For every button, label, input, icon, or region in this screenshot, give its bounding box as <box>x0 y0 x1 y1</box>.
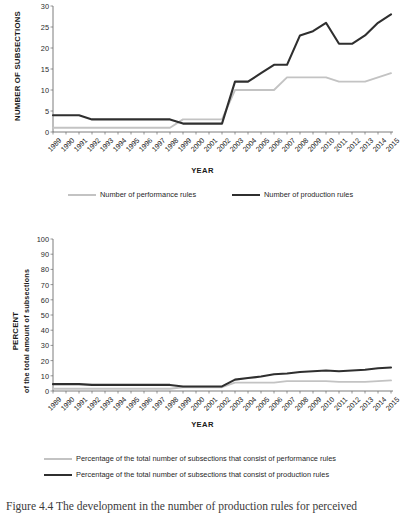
legend-item[interactable]: Percentage of the total number of subsec… <box>44 470 329 479</box>
legend-item[interactable]: Number of production rules <box>232 190 353 199</box>
legend-label: Number of production rules <box>264 190 353 199</box>
top-series-production <box>53 14 391 123</box>
chart-number-of-subsections: NUMBER OF SUBSECTIONS 051015202530 19891… <box>0 0 405 180</box>
figure-caption: Figure 4.4 The development in the number… <box>0 498 405 514</box>
legend-label: Percentage of the total number of subsec… <box>76 454 336 463</box>
legend-swatch-light-line-icon <box>44 458 72 460</box>
top-chart-plot-area: 051015202530 198919901991199219931994199… <box>0 0 405 180</box>
legend-item[interactable]: Number of performance rules <box>68 190 196 199</box>
bottom-chart-x-axis-title: YEAR <box>0 420 405 429</box>
top-chart-x-axis-title: YEAR <box>0 166 405 175</box>
legend-label: Number of performance rules <box>100 190 196 199</box>
legend-item[interactable]: Percentage of the total number of subsec… <box>44 454 336 463</box>
legend-swatch-dark-line-icon <box>232 194 260 196</box>
figure-container: NUMBER OF SUBSECTIONS 051015202530 19891… <box>0 0 405 514</box>
legend-label: Percentage of the total number of subsec… <box>76 470 329 479</box>
chart-percent-of-subsections: PERCENT of the total amount of subsectio… <box>0 228 405 428</box>
top-chart-legend: Number of performance rulesNumber of pro… <box>0 186 405 208</box>
legend-swatch-dark-line-icon <box>44 474 72 476</box>
bottom-series-production <box>53 367 391 386</box>
legend-swatch-light-line-icon <box>68 194 96 196</box>
bottom-chart-legend: Percentage of the total number of subsec… <box>0 452 405 492</box>
bottom-chart-plot-area: 0102030405060708090100 19891990199119921… <box>0 228 405 428</box>
